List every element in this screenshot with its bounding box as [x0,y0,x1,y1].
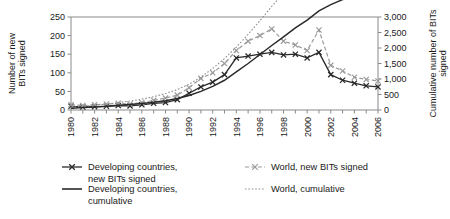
x-axis-tick-label: 1980 [66,117,76,137]
legend-label-line2: cumulative [88,196,132,206]
y-axis-right-tick-label: 3,000 [384,12,407,22]
x-axis: 1980198219841986198819901992199419961998… [66,110,383,137]
x-axis-tick-label: 2000 [303,117,313,137]
legend-item: World, new BITs signed [245,162,368,172]
y-axis-left-tick-label: 200 [50,31,65,41]
x-axis-tick-label: 2006 [373,117,383,137]
y-axis-left-tick-label: 150 [50,49,65,59]
legend-item: World, cumulative [245,184,345,194]
y-axis-right-tick-label: 2,000 [384,43,407,53]
y-axis-left: 050100150200250 [50,12,71,115]
y-axis-left-tick-label: 0 [60,105,65,115]
x-axis-tick-label: 2004 [350,117,360,137]
legend-item: Developing countries,cumulative [62,184,177,205]
y-axis-right-tick-label: 500 [384,90,399,100]
y-axis-right-tick-label: 1,500 [384,59,407,69]
bits-line-chart: 050100150200250 05001,0001,5002,0002,500… [0,0,450,219]
x-axis-tick-label: 1986 [137,117,147,137]
y-axis-right-tick-label: 2,500 [384,28,407,38]
legend-label-line2: new BITs signed [88,174,156,184]
chart-legend: Developing countries,new BITs signedWorl… [62,162,368,205]
x-axis-tick-label: 1984 [114,117,124,137]
x-axis-tick-label: 2002 [326,117,336,137]
series-developing-countries-cumulative [71,0,378,108]
legend-label: World, cumulative [271,184,345,194]
x-axis-tick-label: 1992 [208,117,218,137]
series-world-cumulative [71,0,378,107]
legend-item: Developing countries,new BITs signed [62,162,177,183]
y-axis-right: 05001,0001,5002,0002,5003,000 [378,12,407,115]
x-axis-tick-label: 1994 [232,117,242,137]
y-axis-left-tick-label: 50 [55,87,65,97]
legend-label: Developing countries, [88,162,177,172]
x-axis-tick-label: 1998 [279,117,289,137]
y-axis-right-tick-label: 1,000 [384,74,407,84]
x-axis-tick-label: 1990 [184,117,194,137]
y-axis-left-title: Number of newBITs signed [7,32,27,94]
y-axis-right-title: Cumulative number of BITssigned [428,9,448,118]
x-axis-tick-label: 1996 [255,117,265,137]
y-axis-left-tick-label: 100 [50,68,65,78]
x-axis-tick-label: 1982 [90,117,100,137]
legend-label: Developing countries, [88,184,177,194]
x-axis-tick-label: 1988 [161,117,171,137]
series-world-new-bits-signed [68,26,380,108]
chart-container: 050100150200250 05001,0001,5002,0002,500… [0,0,450,219]
axis-titles: Number of newBITs signedCumulative numbe… [7,9,448,118]
y-axis-left-tick-label: 250 [50,12,65,22]
series-layer [68,0,380,110]
legend-label: World, new BITs signed [271,162,368,172]
y-axis-right-tick-label: 0 [384,105,389,115]
